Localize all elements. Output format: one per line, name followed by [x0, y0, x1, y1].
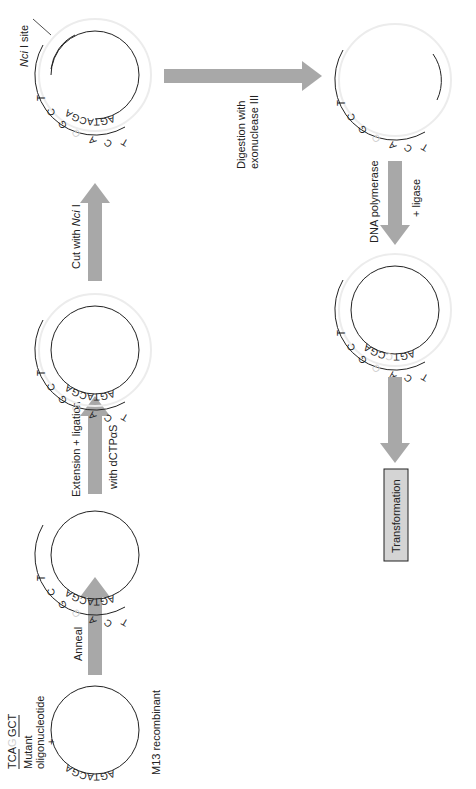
- transformation-label: Transformation: [390, 479, 402, 553]
- polymerase-label: DNA polymerase: [368, 160, 380, 243]
- cut-label: Cut with Nci I: [70, 204, 82, 269]
- extended-circle: AGTACGA T C A G G C T: [35, 294, 151, 425]
- svg-text:C: C: [102, 617, 115, 630]
- nci-site-pointer: [33, 19, 51, 35]
- digestion-label-line2: exonuclease III: [248, 95, 260, 169]
- oligo-bases: T C A G G C T: [336, 100, 430, 155]
- svg-text:A: A: [86, 134, 99, 146]
- digested-circle: T C A G G C T: [335, 24, 451, 155]
- plus-sign: +: [45, 739, 57, 745]
- oligo-seq-gap: G: [6, 738, 18, 747]
- svg-text:C: C: [102, 137, 115, 150]
- svg-text:C: C: [45, 383, 57, 392]
- oligo-label-line2: oligonucleotide: [34, 696, 46, 769]
- transformation-arrow: [380, 377, 410, 463]
- svg-text:C: C: [45, 108, 57, 117]
- svg-text:T: T: [336, 100, 347, 106]
- m13-caption: M13 recombinant: [150, 690, 162, 775]
- svg-text:T: T: [119, 616, 130, 629]
- svg-text:T: T: [36, 95, 47, 101]
- svg-text:T: T: [419, 141, 430, 154]
- mutant-oligonucleotide: TCA G GCT Mutant oligonucleotide +: [6, 696, 57, 769]
- transformation-box: Transformation: [384, 469, 408, 561]
- svg-text:C: C: [45, 588, 57, 597]
- anneal-label: Anneal: [72, 627, 84, 661]
- svg-text:T: T: [336, 330, 347, 336]
- digestion-arrow: Digestion with exonuclease III: [164, 61, 322, 169]
- extension-label: Extension + ligation: [70, 401, 82, 497]
- m13-circle: AGTACGA: [51, 686, 139, 783]
- svg-text:C: C: [402, 372, 415, 385]
- svg-text:T: T: [119, 136, 130, 149]
- annealed-circle: AGTACGA T C A G G C T: [35, 511, 139, 630]
- mutagenesis-diagram: TCA G GCT Mutant oligonucleotide + AGTAC…: [0, 0, 476, 789]
- nci-site-label: Nci I site: [18, 25, 30, 67]
- svg-text:A: A: [386, 139, 399, 151]
- template-seq: AGTACGA: [62, 762, 116, 783]
- dctp-label: with dCTPαS: [107, 425, 119, 490]
- svg-text:C: C: [402, 142, 415, 155]
- cut-arrow: Cut with Nci I: [70, 183, 110, 281]
- repaired-circle: AGTCCGA T C A G G C T: [335, 254, 451, 385]
- svg-text:T: T: [119, 411, 130, 424]
- digestion-label-line1: Digestion with: [235, 101, 247, 169]
- nicked-circle: AGTACGA T C A G G C T: [33, 19, 151, 150]
- oligo-label-line1: Mutant: [22, 735, 34, 769]
- svg-text:T: T: [419, 371, 430, 384]
- svg-text:T: T: [36, 370, 47, 376]
- polymerase-arrow: DNA polymerase + ligase: [368, 160, 422, 245]
- oligo-seq-left: TCA: [6, 746, 18, 769]
- svg-text:T: T: [36, 575, 47, 581]
- svg-text:C: C: [345, 113, 357, 122]
- oligo-seq-right: GCT: [6, 714, 18, 738]
- svg-text:G: G: [69, 607, 83, 619]
- ligase-label: + ligase: [410, 179, 422, 217]
- svg-text:C: C: [345, 343, 357, 352]
